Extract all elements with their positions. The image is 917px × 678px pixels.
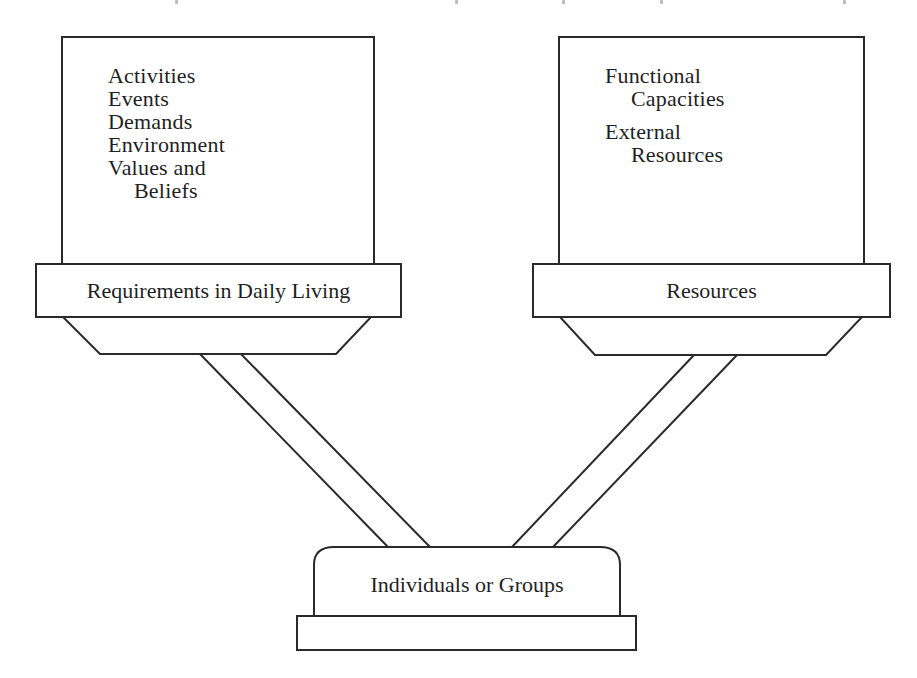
left-items-list: Activities Events Demands Environment Va… — [108, 64, 225, 202]
base-label: Individuals or Groups — [314, 560, 620, 610]
right-item: Resources — [605, 143, 725, 166]
right-trapezoid — [560, 317, 862, 355]
right-items-list: Functional Capacities External Resources — [605, 64, 725, 166]
left-trapezoid — [62, 316, 372, 354]
left-item: Values and — [108, 156, 225, 179]
right-strut-line — [512, 355, 694, 547]
left-panel-label: Requirements in Daily Living — [36, 264, 401, 317]
left-item: Activities — [108, 64, 225, 87]
right-panel-label: Resources — [533, 264, 890, 317]
right-item: Capacities — [605, 87, 725, 110]
left-item: Environment — [108, 133, 225, 156]
right-strut-line — [553, 355, 737, 547]
left-strut-line — [200, 354, 388, 547]
left-strut-line — [241, 354, 430, 547]
right-item: Functional — [605, 64, 725, 87]
right-item: External — [605, 120, 725, 143]
left-item: Beliefs — [108, 179, 225, 202]
base-plinth — [297, 616, 636, 650]
left-item: Events — [108, 87, 225, 110]
left-item: Demands — [108, 110, 225, 133]
